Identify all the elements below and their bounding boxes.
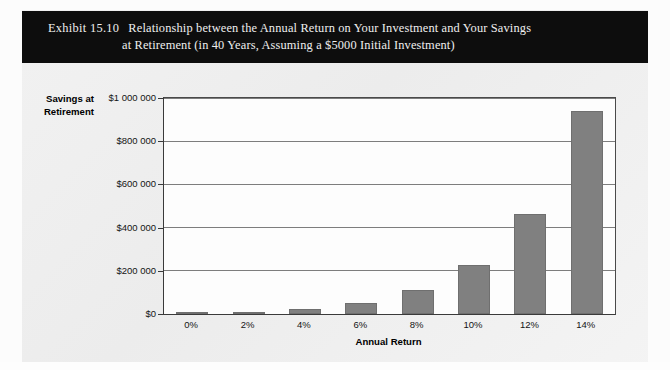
x-axis-tick-label: 10%: [464, 319, 483, 330]
y-axis-tick-label: $1 000 000: [108, 92, 156, 103]
gridline: [164, 270, 615, 271]
bar-2pct: [233, 312, 265, 314]
gridline: [164, 184, 615, 185]
x-axis-tick-label: 0%: [184, 319, 198, 330]
x-axis-tick-label: 8%: [410, 319, 424, 330]
y-axis-tick-label: $400 000: [116, 221, 156, 232]
bar-4pct: [289, 309, 321, 314]
y-axis-tick-label: $200 000: [116, 264, 156, 275]
y-axis-tick-mark: [158, 228, 164, 229]
y-axis-tick-mark: [158, 271, 164, 272]
exhibit-figure: Exhibit 15.10Relationship between the An…: [0, 0, 670, 370]
exhibit-number-label: Exhibit 15.10: [48, 21, 119, 35]
bar-6pct: [345, 303, 377, 314]
exhibit-title-text-1: Relationship between the Annual Return o…: [128, 21, 531, 35]
exhibit-title-line-2: at Retirement (in 40 Years, Assuming a $…: [36, 37, 634, 54]
chart-canvas: Savings at Retirement $0$200 000$400 000…: [22, 63, 648, 362]
gridline: [164, 141, 615, 142]
y-axis-tick-labels: $0$200 000$400 000$600 000$800 000$1 000…: [22, 97, 156, 313]
x-axis-tick-label: 4%: [297, 319, 311, 330]
bar-0pct: [176, 312, 208, 314]
x-axis-tick-label: 12%: [520, 319, 539, 330]
exhibit-title-line-1: Exhibit 15.10Relationship between the An…: [36, 20, 634, 37]
page-margin-bottom: [0, 362, 670, 370]
page-margin-right: [648, 0, 670, 370]
gridline: [164, 98, 615, 99]
bar-14pct: [571, 111, 603, 314]
gridline: [164, 227, 615, 228]
x-axis-tick-label: 2%: [241, 319, 255, 330]
y-axis-tick-mark: [158, 98, 164, 99]
bar-12pct: [514, 214, 546, 314]
page-margin-top: [0, 0, 670, 10]
y-axis-tick-label: $0: [145, 308, 156, 319]
y-axis-tick-mark: [158, 314, 164, 315]
plot-area: [163, 97, 616, 315]
page-margin-left: [0, 0, 22, 370]
bar-10pct: [458, 265, 490, 314]
exhibit-title-banner: Exhibit 15.10Relationship between the An…: [22, 11, 648, 63]
bar-8pct: [402, 290, 434, 314]
y-axis-tick-label: $600 000: [116, 178, 156, 189]
x-axis-tick-label: 14%: [576, 319, 595, 330]
x-axis-title: Annual Return: [163, 336, 614, 347]
x-axis-tick-label: 6%: [353, 319, 367, 330]
y-axis-tick-label: $800 000: [116, 135, 156, 146]
y-axis-tick-mark: [158, 184, 164, 185]
y-axis-tick-mark: [158, 141, 164, 142]
